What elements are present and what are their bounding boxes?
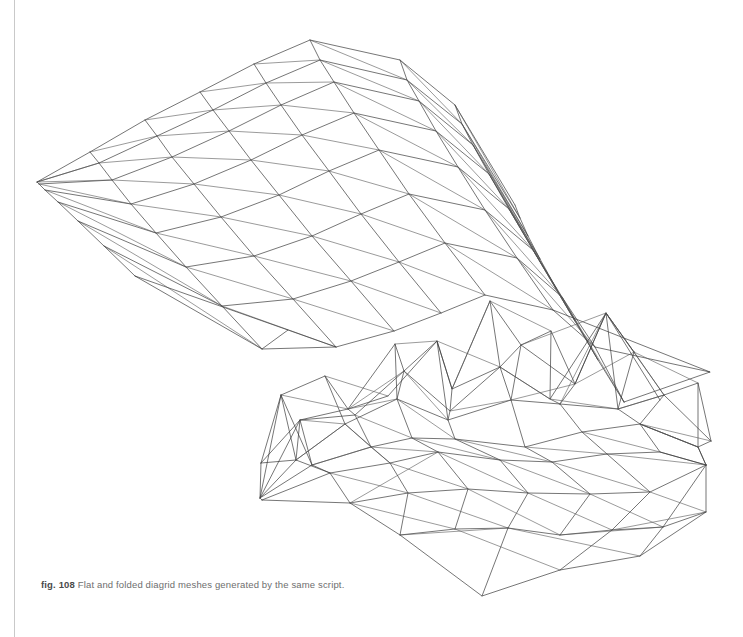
- figure-caption-label: fig. 108: [41, 579, 75, 590]
- diagrid-figure: [0, 0, 743, 637]
- folded-diagrid-mesh: [260, 301, 711, 596]
- flat-diagrid-mesh: [37, 40, 710, 402]
- figure-page: fig. 108 Flat and folded diagrid meshes …: [0, 0, 743, 637]
- figure-caption: fig. 108 Flat and folded diagrid meshes …: [41, 578, 344, 591]
- figure-caption-text: Flat and folded diagrid meshes generated…: [78, 579, 345, 590]
